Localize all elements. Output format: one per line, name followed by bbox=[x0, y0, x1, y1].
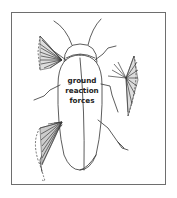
force-fan-front-left bbox=[38, 36, 62, 70]
body-outline bbox=[58, 55, 102, 170]
label-line-1: ground bbox=[62, 76, 102, 86]
force-fan-middle-right bbox=[108, 56, 138, 116]
hind-right-leg bbox=[98, 120, 128, 150]
left-antenna bbox=[54, 21, 72, 45]
label-line-2: reaction bbox=[62, 86, 102, 96]
label-line-3: forces bbox=[62, 96, 102, 106]
right-antenna bbox=[88, 19, 101, 45]
middle-right-leg bbox=[101, 84, 118, 112]
ground-reaction-forces-label: ground reaction forces bbox=[62, 76, 102, 106]
middle-left-leg bbox=[34, 85, 60, 100]
force-fan-hind-left bbox=[35, 122, 62, 181]
front-right-leg bbox=[95, 46, 116, 60]
